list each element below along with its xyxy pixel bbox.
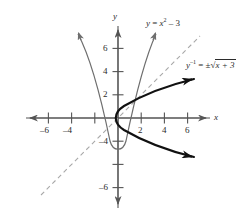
coordinate-plane-svg: [0, 0, 250, 214]
inverse-radicand: x + 3: [215, 59, 235, 70]
function-equation-label: y = x2 – 3: [146, 17, 180, 28]
x-tick-label-6: 6: [185, 126, 190, 135]
y-tick-label-neg4: –4: [99, 137, 108, 146]
x-tick-label-neg4: –4: [63, 126, 72, 135]
y-tick-label-2: 2: [103, 90, 108, 99]
y-tick-label-6: 6: [103, 44, 108, 53]
inverse-upper-arrow: [186, 79, 192, 81]
x-axis-label: x: [214, 113, 218, 122]
x-tick-label-2: 2: [138, 126, 143, 135]
function-rest: – 3: [167, 18, 181, 28]
graph-figure: x y –6 –4 2 4 6 6 4 2 –4 –6 y = x2 – 3 y…: [0, 0, 250, 214]
y-tick-label-neg6: –6: [99, 183, 108, 192]
inverse-equation-label: y–1 = ±√x + 3: [186, 59, 236, 70]
function-equals: =: [150, 18, 160, 28]
y-tick-label-4: 4: [103, 67, 108, 76]
line-of-symmetry-y-equals-x: [41, 36, 200, 195]
x-tick-label-neg6: –6: [40, 126, 49, 135]
inverse-equals: =: [196, 60, 206, 70]
inverse-lower-arrow: [186, 155, 192, 157]
y-axis-label: y: [113, 12, 117, 21]
x-tick-label-4: 4: [162, 126, 167, 135]
